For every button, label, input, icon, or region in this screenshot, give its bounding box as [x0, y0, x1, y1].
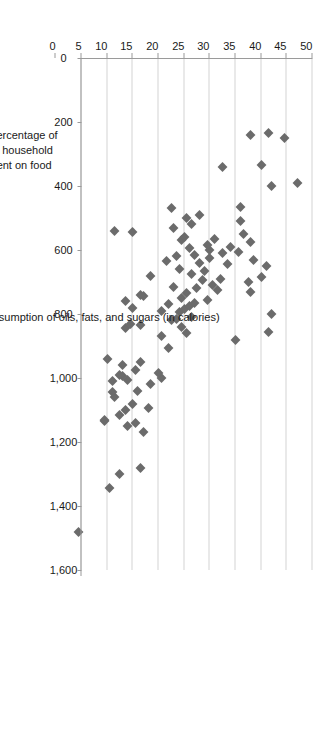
y-tick-label: 15 [120, 40, 132, 52]
y-tick-label: 50 [300, 40, 312, 52]
data-point [166, 203, 176, 213]
data-point [256, 272, 266, 282]
data-point [102, 354, 112, 364]
data-point [215, 274, 225, 284]
data-point [194, 210, 204, 220]
data-point [117, 360, 127, 370]
y-tick-label: 20 [146, 40, 158, 52]
chart-container: 02004006008001,0001,2001,4001,600 504540… [0, 0, 331, 732]
y-tick-label: 25 [171, 40, 183, 52]
y-axis-title-line-1: Average percentage of [0, 128, 116, 143]
data-point [174, 264, 184, 274]
data-point [143, 403, 153, 413]
data-point [292, 178, 302, 188]
gridline [260, 58, 261, 570]
data-point [168, 223, 178, 233]
y-tick [208, 53, 209, 58]
y-tick [131, 53, 132, 58]
y-tick [106, 53, 107, 58]
data-point [145, 271, 155, 281]
y-tick [54, 53, 55, 58]
x-tick-label: 1,400 [49, 500, 77, 512]
data-point [168, 282, 178, 292]
data-point [279, 133, 289, 143]
data-point [171, 251, 181, 261]
y-tick-label: 5 [75, 40, 81, 52]
x-tick-label: 200 [54, 116, 72, 128]
data-point [263, 128, 273, 138]
data-point [235, 202, 245, 212]
chart-rotated-frame: 02004006008001,0001,2001,4001,600 504540… [0, 0, 331, 732]
data-point [127, 399, 137, 409]
data-point [107, 376, 117, 386]
data-point [163, 299, 173, 309]
y-tick-label: 30 [197, 40, 209, 52]
x-tick [77, 250, 81, 251]
data-point [115, 469, 125, 479]
data-point [235, 216, 245, 226]
data-point [186, 269, 196, 279]
data-point [256, 160, 266, 170]
y-tick-label: 40 [248, 40, 260, 52]
data-point [145, 379, 155, 389]
x-tick [77, 378, 81, 379]
x-tick-label: 600 [54, 244, 72, 256]
x-tick [77, 570, 81, 571]
data-point [192, 283, 202, 293]
y-tick [234, 53, 235, 58]
y-tick [80, 53, 81, 58]
y-tick-label: 35 [223, 40, 235, 52]
y-tick [311, 53, 312, 58]
data-point [135, 463, 145, 473]
x-tick-label: 1,000 [49, 372, 77, 384]
data-point [199, 266, 209, 276]
x-tick [77, 506, 81, 507]
data-point [120, 296, 130, 306]
y-axis-line [80, 58, 312, 59]
data-point [245, 287, 255, 297]
data-point [109, 226, 119, 236]
x-tick [77, 442, 81, 443]
data-point [163, 343, 173, 353]
x-tick-label: 1,600 [49, 564, 77, 576]
y-tick-label: 0 [49, 40, 55, 52]
x-tick [77, 122, 81, 123]
data-point [266, 309, 276, 319]
x-tick [77, 58, 81, 59]
gridline [311, 58, 312, 570]
data-point [261, 261, 271, 271]
y-tick [157, 53, 158, 58]
x-tick-label: 0 [60, 52, 66, 64]
data-point [202, 295, 212, 305]
data-point [266, 181, 276, 191]
data-point [217, 162, 227, 172]
data-point [217, 248, 227, 258]
data-point [138, 427, 148, 437]
data-point [245, 130, 255, 140]
y-tick [183, 53, 184, 58]
data-point [222, 259, 232, 269]
data-point [245, 237, 255, 247]
x-axis-title: Daily average per capita consumption of … [0, 311, 219, 323]
data-point [210, 234, 220, 244]
y-tick [285, 53, 286, 58]
y-axis-title-line-2: disposable household [0, 143, 116, 158]
data-point [263, 327, 273, 337]
data-point [238, 229, 248, 239]
data-point [230, 335, 240, 345]
y-tick-label: 45 [274, 40, 286, 52]
data-point [133, 386, 143, 396]
y-tick-label: 10 [94, 40, 106, 52]
y-axis-title: Average percentage of disposable househo… [0, 128, 116, 173]
data-point [127, 227, 137, 237]
data-point [243, 277, 253, 287]
x-tick-label: 400 [54, 180, 72, 192]
x-tick-label: 1,200 [49, 436, 77, 448]
x-tick [77, 186, 81, 187]
data-point [73, 527, 83, 537]
data-point [161, 256, 171, 266]
gridline [234, 58, 235, 570]
y-axis-title-line-3: income spent on food [0, 157, 116, 172]
data-point [248, 255, 258, 265]
y-tick [260, 53, 261, 58]
